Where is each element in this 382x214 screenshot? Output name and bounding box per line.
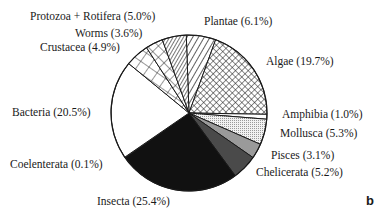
label-chelicerata: Chelicerata (5.2%)	[256, 167, 343, 179]
label-insecta: Insecta (25.4%)	[97, 196, 170, 208]
pie-slices	[111, 35, 267, 191]
label-crustacea: Crustacea (4.9%)	[40, 42, 120, 54]
label-amphibia: Amphibia (1.0%)	[282, 109, 362, 121]
panel-label: b	[366, 193, 374, 208]
label-mollusca: Mollusca (5.3%)	[280, 128, 357, 140]
label-plantae: Plantae (6.1%)	[204, 16, 272, 28]
label-coelenterata: Coelenterata (0.1%)	[10, 159, 103, 171]
label-pisces: Pisces (3.1%)	[271, 150, 334, 162]
label-bacteria: Bacteria (20.5%)	[12, 107, 91, 119]
label-worms: Worms (3.6%)	[75, 28, 142, 40]
label-algae: Algae (19.7%)	[266, 56, 334, 68]
label-protozoa-rotifera: Protozoa + Rotifera (5.0%)	[30, 11, 155, 23]
